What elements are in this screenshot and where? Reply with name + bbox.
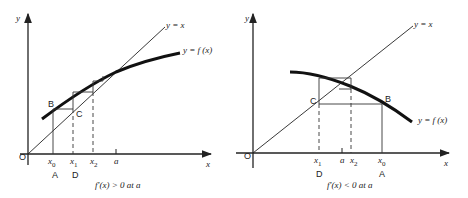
left-caption: f′(x) > 0 at a xyxy=(95,180,141,190)
left-tick-a-label: a xyxy=(114,157,119,166)
left-curve-label: y = f (x) xyxy=(183,46,212,55)
left-line-label: y = x xyxy=(166,21,185,30)
left-diagram xyxy=(20,14,211,165)
left-tick-x1-label: x1 xyxy=(70,157,78,169)
left-dashed-guides xyxy=(73,92,93,154)
left-y-axis-label: y xyxy=(16,14,20,23)
right-diagram xyxy=(236,14,449,168)
left-tick-x0-label: x0 xyxy=(48,157,56,169)
right-point-a-label: A xyxy=(379,170,385,179)
left-point-c: C xyxy=(76,110,83,119)
right-x-axis-label: x xyxy=(444,159,448,168)
right-tick-x0-label: x0 xyxy=(378,156,386,168)
left-line-y-equals-x xyxy=(28,27,165,154)
right-tick-x1-label: x1 xyxy=(314,156,322,168)
right-origin-label: O xyxy=(244,152,251,161)
right-point-b: B xyxy=(385,95,391,104)
right-caption: f′(x) < 0 at a xyxy=(327,180,373,190)
left-x-axis-label: x xyxy=(206,160,210,169)
left-point-b: B xyxy=(48,100,54,109)
right-tick-x2-label: x2 xyxy=(350,156,358,168)
left-point-d-label: D xyxy=(72,171,79,180)
right-tick-a-label: a xyxy=(340,156,345,165)
right-line-y-equals-x xyxy=(253,26,413,153)
right-curve-label: y = f (x) xyxy=(418,116,447,125)
right-dashed-guides xyxy=(319,89,351,153)
right-point-d-label: D xyxy=(316,170,323,179)
left-origin-label: O xyxy=(19,153,26,162)
right-line-label: y = x xyxy=(414,20,433,29)
right-cobweb xyxy=(319,78,382,153)
left-tick-x2-label: x2 xyxy=(90,157,98,169)
right-y-axis-label: y xyxy=(245,14,249,23)
left-point-a-label: A xyxy=(52,171,58,180)
right-point-c: C xyxy=(310,97,317,106)
